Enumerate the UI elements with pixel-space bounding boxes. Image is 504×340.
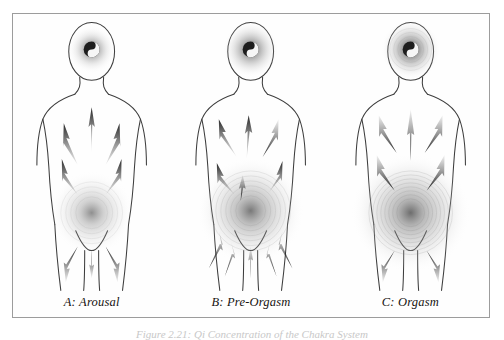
panel-label-arousal: A: Arousal bbox=[12, 295, 171, 310]
panel-label-orgasm: C: Orgasm bbox=[331, 295, 490, 310]
panel-orgasm-artwork bbox=[331, 15, 490, 297]
panel-orgasm: C: Orgasm bbox=[331, 13, 490, 318]
head-yin-yang bbox=[243, 41, 259, 57]
panel-arousal: A: Arousal bbox=[12, 13, 171, 318]
head-yin-yang bbox=[402, 41, 418, 57]
panel-pre-orgasm: B: Pre-Orgasm bbox=[171, 13, 330, 318]
figure-caption: Figure 2.21: Qi Concentration of the Cha… bbox=[0, 325, 504, 340]
panel-arousal-artwork bbox=[12, 15, 171, 297]
panel-container: A: Arousal bbox=[12, 13, 490, 318]
panel-label-pre-orgasm: B: Pre-Orgasm bbox=[171, 295, 330, 310]
panel-pre-orgasm-artwork bbox=[171, 15, 330, 297]
figure-root: A: Arousal bbox=[0, 0, 504, 340]
pelvis-energy-glow bbox=[50, 171, 134, 255]
head-yin-yang bbox=[84, 41, 100, 57]
